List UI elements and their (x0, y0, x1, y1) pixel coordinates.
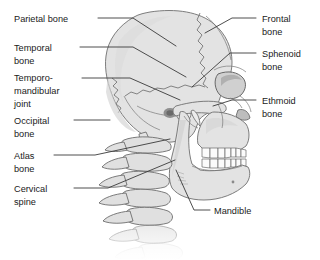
label-ethmoid-bone-line-2: bone (262, 109, 282, 119)
skull-diagram: Parietal bone Temporal bone Temporo- man… (0, 0, 320, 260)
c4-spinous-process (99, 193, 129, 205)
axis-vertebra-c2 (121, 153, 172, 171)
label-temporomandibular-joint: Temporo- mandibular joint (13, 73, 62, 109)
label-cervical-spine-line-1: Cervical (14, 184, 47, 194)
label-sphenoid-bone: Sphenoid bone (262, 49, 303, 72)
label-frontal-bone-line-1: Frontal (262, 14, 291, 24)
label-occipital-bone: Occipital bone (14, 116, 52, 139)
label-atlas-bone-line-1: Atlas (14, 151, 35, 161)
label-temporal-bone-line-2: bone (14, 56, 34, 66)
label-mandible: Mandible (214, 206, 251, 216)
label-parietal-bone-line-1: Parietal bone (14, 14, 68, 24)
bottom-fade-overlay (0, 228, 320, 260)
cervical-spine-group (0, 137, 320, 260)
label-frontal-bone-line-2: bone (262, 27, 282, 37)
ear-canal-inner (166, 110, 173, 116)
label-ethmoid-bone-line-1: Ethmoid (262, 96, 296, 106)
skull-group (105, 11, 251, 201)
label-ethmoid-bone: Ethmoid bone (262, 96, 298, 119)
label-sphenoid-bone-line-1: Sphenoid (262, 49, 301, 59)
mental-foramen (232, 181, 235, 184)
label-atlas-bone: Atlas bone (14, 151, 37, 174)
label-parietal-bone: Parietal bone (14, 14, 68, 24)
atlas-vertebra-c1 (121, 137, 171, 153)
label-frontal-bone: Frontal bone (262, 14, 293, 37)
label-occipital-bone-line-2: bone (14, 129, 34, 139)
c5-spinous-process (103, 211, 133, 223)
label-sphenoid-bone-line-2: bone (262, 62, 282, 72)
labels-bottom: Mandible (214, 206, 251, 216)
label-temporal-bone: Temporal bone (14, 43, 54, 66)
label-tmj-line-3: joint (13, 99, 31, 109)
label-temporal-bone-line-1: Temporal (14, 43, 52, 53)
axis-spinous-process (102, 157, 129, 169)
label-occipital-bone-line-1: Occipital (14, 116, 49, 126)
label-atlas-bone-line-2: bone (14, 164, 34, 174)
label-cervical-spine-line-2: spine (14, 197, 36, 207)
label-tmj-line-2: mandibular (14, 86, 59, 96)
label-tmj-line-1: Temporo- (14, 73, 53, 83)
c3-spinous-process (99, 175, 127, 187)
labels-right: Frontal bone Sphenoid bone Ethmoid bone (262, 14, 303, 119)
label-cervical-spine: Cervical spine (14, 184, 50, 207)
labels-left: Parietal bone Temporal bone Temporo- man… (13, 14, 68, 207)
upper-teeth (202, 148, 246, 158)
ethmoid-region (230, 98, 242, 108)
label-mandible-line-1: Mandible (214, 206, 251, 216)
vertebra-c4 (121, 189, 171, 207)
anatomy-figure-container: Parietal bone Temporal bone Temporo- man… (0, 0, 320, 260)
